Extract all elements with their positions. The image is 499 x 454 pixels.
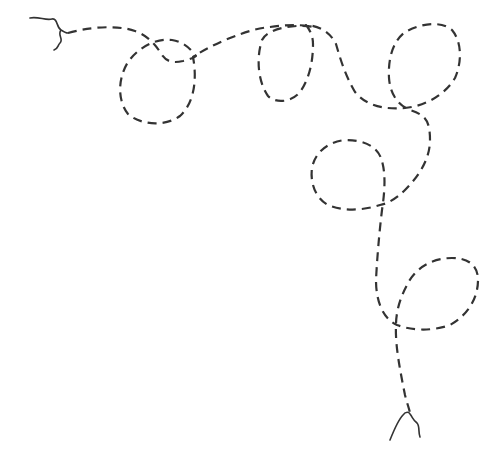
drawing-canvas xyxy=(0,0,499,454)
background xyxy=(0,0,499,454)
